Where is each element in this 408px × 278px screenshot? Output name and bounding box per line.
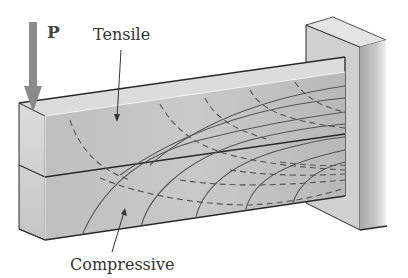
compressive-label: Compressive [70, 255, 174, 274]
tensile-label: Tensile [93, 25, 150, 44]
wall-front-face [360, 40, 386, 230]
cantilever-beam-diagram [0, 0, 408, 278]
load-arrow-icon [24, 22, 42, 112]
load-label: P [47, 22, 60, 42]
